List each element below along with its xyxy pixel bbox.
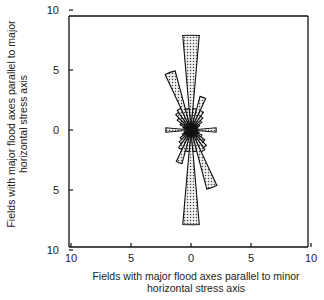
x-tick-label: 10 [305,252,317,264]
y-tick-label: 10 [47,244,59,256]
y-tick-label: 10 [47,4,59,16]
y-axis-title-line-2: horizontal stress axis [17,14,29,234]
rose-diagram-chart: 10505101050510 [0,0,324,300]
x-axis-title: Fields with major flood axes parallel to… [80,270,312,294]
y-tick-label: 5 [53,184,59,196]
y-tick-label: 5 [53,64,59,76]
y-tick-label: 0 [53,124,59,136]
x-axis-title-line-1: Fields with major flood axes parallel to… [80,270,312,282]
y-axis-title: Fields with major flood axes parallel to… [5,14,29,234]
y-axis-title-line-1: Fields with major flood axes parallel to… [5,14,17,234]
x-tick-label: 5 [128,252,134,264]
x-tick-label: 5 [248,252,254,264]
x-tick-label: 0 [188,252,194,264]
rose-petals [165,35,217,225]
x-tick-label: 10 [65,252,77,264]
x-axis-title-line-2: horizontal stress axis [80,282,312,294]
